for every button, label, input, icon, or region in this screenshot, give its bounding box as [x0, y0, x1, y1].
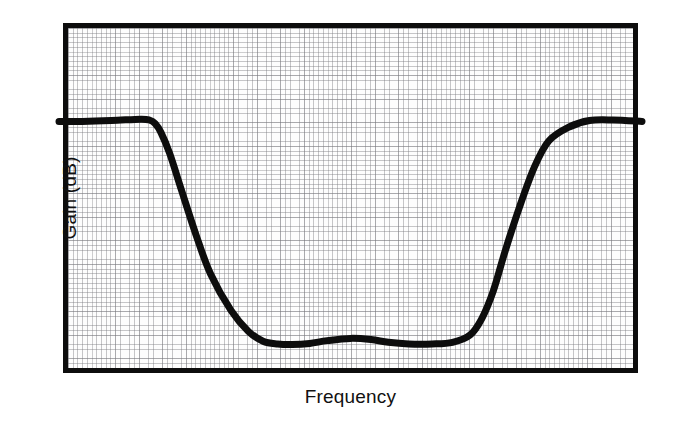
y-axis-label: Gain (dB)	[0, 128, 140, 268]
y-axis-label-text: Gain (dB)	[59, 156, 81, 239]
figure-container: Gain (dB) Frequency	[0, 0, 678, 426]
plot-frame	[63, 23, 638, 373]
x-axis-label: Frequency	[63, 386, 638, 408]
grid-lines	[68, 28, 633, 368]
